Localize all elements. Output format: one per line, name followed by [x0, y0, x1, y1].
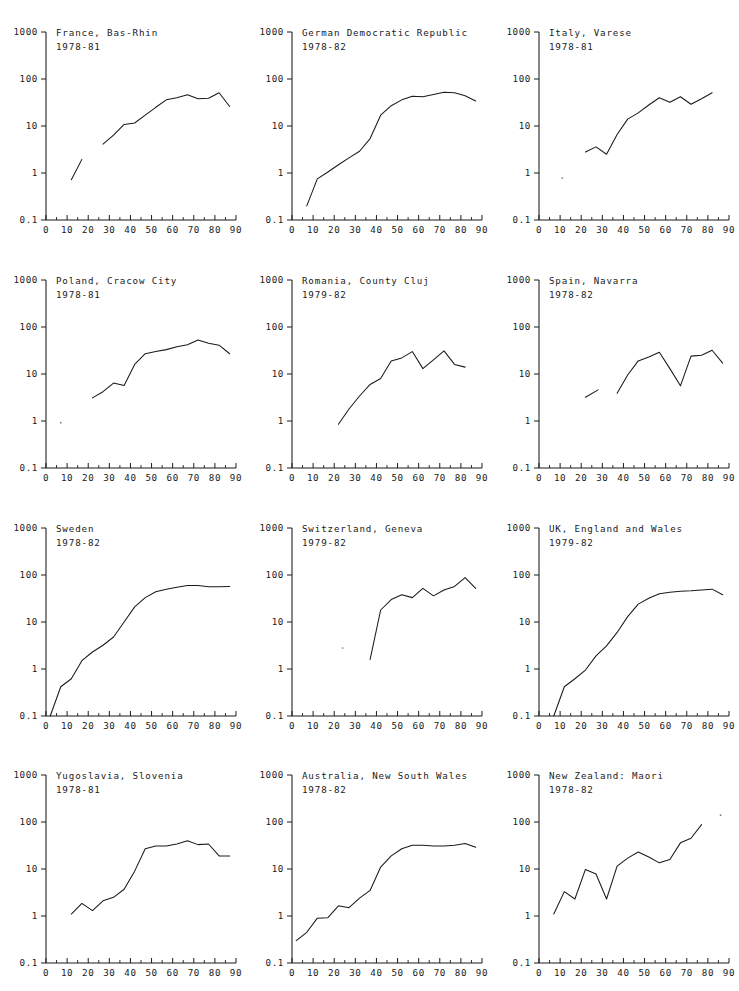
y-tick-label: 10 [26, 120, 38, 131]
x-tick-label: 50 [638, 967, 650, 978]
x-tick-label: 90 [723, 224, 735, 235]
x-tick-label: 40 [124, 472, 136, 483]
x-tick-label: 70 [188, 967, 200, 978]
x-tick-label: 10 [61, 224, 73, 235]
data-line [370, 577, 476, 659]
x-tick-label: 80 [455, 967, 467, 978]
panel-title: Romania, County Cluj [302, 275, 430, 286]
x-tick-label: 0 [43, 472, 49, 483]
x-tick-label: 50 [638, 720, 650, 731]
x-tick-label: 20 [328, 224, 340, 235]
chart-panel: 10001001010.10102030405060708090Italy, V… [493, 0, 739, 248]
x-tick-label: 50 [638, 224, 650, 235]
x-tick-label: 70 [434, 472, 446, 483]
panel-subtitle: 1978-81 [56, 41, 101, 52]
x-tick-label: 80 [701, 967, 713, 978]
y-tick-label: 100 [20, 73, 38, 84]
chart-svg: 10001001010.10102030405060708090Poland, … [0, 248, 246, 496]
x-tick-label: 90 [476, 224, 488, 235]
chart-svg: 10001001010.10102030405060708090German D… [246, 0, 492, 248]
x-tick-label: 90 [723, 967, 735, 978]
chart-panel: 10001001010.10102030405060708090Sweden19… [0, 496, 246, 744]
y-tick-label: 1 [278, 415, 284, 426]
x-tick-label: 30 [596, 967, 608, 978]
y-tick-label: 100 [20, 569, 38, 580]
panel-title: German Democratic Republic [302, 27, 468, 38]
data-line [553, 825, 701, 914]
x-tick-label: 50 [145, 720, 157, 731]
y-tick-label: 1000 [260, 26, 285, 37]
y-tick-label: 0.1 [266, 462, 284, 473]
y-tick-label: 100 [512, 569, 530, 580]
x-tick-label: 40 [617, 967, 629, 978]
chart-panel: 10001001010.10102030405060708090German D… [246, 0, 492, 248]
x-tick-label: 10 [554, 720, 566, 731]
x-tick-label: 40 [617, 224, 629, 235]
x-tick-label: 70 [680, 967, 692, 978]
x-tick-label: 0 [289, 472, 295, 483]
x-tick-label: 40 [371, 720, 383, 731]
y-tick-label: 0.1 [20, 214, 38, 225]
x-tick-label: 40 [124, 967, 136, 978]
data-line [585, 93, 712, 155]
x-tick-label: 90 [476, 967, 488, 978]
panel-subtitle: 1978-81 [56, 289, 101, 300]
x-tick-label: 70 [680, 720, 692, 731]
panel-title: Australia, New South Wales [302, 770, 468, 781]
x-tick-label: 30 [350, 720, 362, 731]
x-tick-label: 0 [43, 720, 49, 731]
panel-subtitle: 1978-82 [549, 289, 594, 300]
x-tick-label: 60 [413, 720, 425, 731]
x-tick-label: 60 [167, 224, 179, 235]
x-tick-label: 40 [371, 472, 383, 483]
chart-panel: 10001001010.10102030405060708090Romania,… [246, 248, 492, 496]
x-tick-label: 40 [617, 720, 629, 731]
y-tick-label: 1 [525, 415, 531, 426]
x-tick-label: 30 [596, 720, 608, 731]
chart-svg: 10001001010.10102030405060708090Italy, V… [493, 0, 739, 248]
y-tick-label: 1 [278, 167, 284, 178]
x-tick-label: 90 [230, 720, 242, 731]
panel-title: UK, England and Wales [549, 522, 683, 533]
x-tick-label: 50 [145, 472, 157, 483]
panel-subtitle: 1978-82 [56, 536, 101, 547]
y-tick-label: 0.1 [266, 958, 284, 969]
y-tick-label: 1000 [13, 770, 38, 781]
panel-subtitle: 1978-82 [302, 41, 347, 52]
y-tick-label: 0.1 [512, 214, 530, 225]
data-line [71, 841, 229, 914]
y-tick-label: 1000 [260, 274, 285, 285]
x-tick-label: 60 [413, 472, 425, 483]
y-tick-label: 1 [525, 663, 531, 674]
x-tick-label: 80 [701, 224, 713, 235]
x-tick-label: 20 [328, 720, 340, 731]
x-tick-label: 60 [659, 472, 671, 483]
y-tick-label: 0.1 [266, 214, 284, 225]
chart-panel: 10001001010.10102030405060708090New Zeal… [493, 743, 739, 991]
x-tick-label: 0 [289, 224, 295, 235]
x-tick-label: 50 [392, 224, 404, 235]
x-tick-label: 50 [145, 224, 157, 235]
x-tick-label: 40 [617, 472, 629, 483]
chart-svg: 10001001010.10102030405060708090New Zeal… [493, 743, 739, 991]
y-tick-label: 100 [266, 73, 284, 84]
panel-subtitle: 1978-81 [56, 784, 101, 795]
y-tick-label: 1000 [13, 26, 38, 37]
y-tick-label: 1 [278, 663, 284, 674]
x-tick-label: 60 [659, 720, 671, 731]
y-tick-label: 100 [266, 321, 284, 332]
chart-panel: 10001001010.10102030405060708090Yugoslav… [0, 743, 246, 991]
x-tick-label: 80 [455, 224, 467, 235]
panel-subtitle: 1978-82 [302, 784, 347, 795]
panel-title: France, Bas-Rhin [56, 27, 158, 38]
x-tick-label: 50 [392, 967, 404, 978]
x-tick-label: 20 [82, 472, 94, 483]
y-tick-label: 1000 [260, 770, 285, 781]
y-tick-label: 1 [278, 911, 284, 922]
x-tick-label: 60 [413, 224, 425, 235]
x-tick-label: 10 [307, 224, 319, 235]
y-tick-label: 1000 [260, 522, 285, 533]
y-tick-label: 0.1 [512, 462, 530, 473]
x-tick-label: 70 [188, 720, 200, 731]
x-tick-label: 30 [596, 224, 608, 235]
